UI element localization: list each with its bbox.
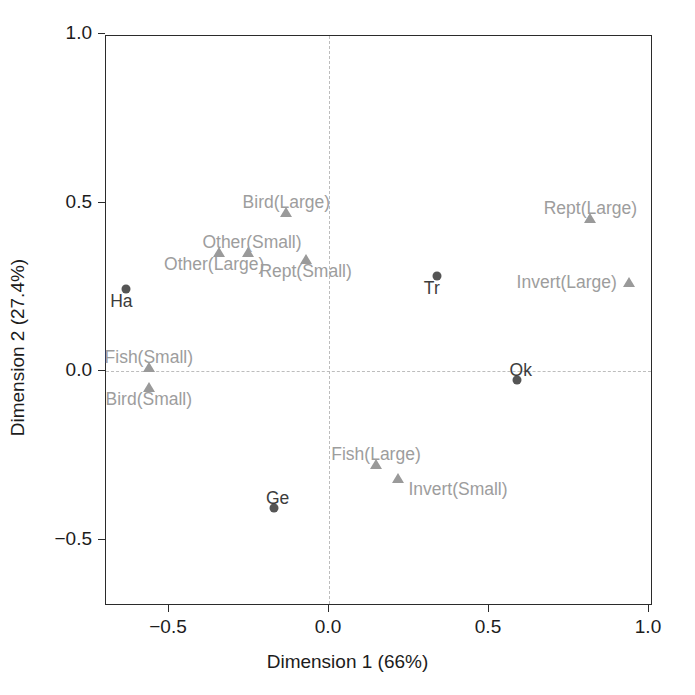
triangle-marker-icon <box>392 473 404 483</box>
x-axis-tick-label: 0.5 <box>475 616 501 638</box>
x-axis-tick-label: 0.0 <box>315 616 341 638</box>
scatter-plot-figure: −0.50.00.51.0−0.50.00.51.0HaTrOkGeBird(L… <box>0 0 695 695</box>
y-axis-tick-label: 0.0 <box>66 359 92 381</box>
data-point-invertlarge <box>623 277 635 287</box>
point-label: Invert(Large) <box>517 272 617 293</box>
point-label: Invert(Small) <box>408 479 507 500</box>
point-label: Bird(Large) <box>243 192 331 213</box>
point-label: Tr <box>424 278 440 299</box>
x-axis-tick-label: 1.0 <box>635 616 661 638</box>
y-axis-tick <box>98 33 105 34</box>
y-axis-tick <box>98 539 105 540</box>
data-point-invertsmall <box>392 473 404 483</box>
triangle-marker-icon <box>623 277 635 287</box>
y-axis-tick-label: 0.5 <box>66 191 92 213</box>
x-axis-tick <box>648 605 649 612</box>
x-axis-tick <box>488 605 489 612</box>
point-label: Rept(Small) <box>259 261 351 282</box>
point-label: Bird(Small) <box>106 389 193 410</box>
point-label: Rept(Large) <box>544 198 637 219</box>
point-label: Ge <box>266 488 289 509</box>
point-label: Ha <box>110 291 132 312</box>
point-label: Other(Large) <box>164 254 264 275</box>
y-axis-title: Dimension 2 (27.4%) <box>0 0 36 695</box>
x-axis-tick <box>168 605 169 612</box>
point-label: Fish(Small) <box>105 347 193 368</box>
x-axis-tick-label: −0.5 <box>149 616 187 638</box>
y-axis-tick-label: 1.0 <box>66 22 92 44</box>
plot-area <box>105 35 652 605</box>
y-axis-tick <box>98 202 105 203</box>
y-axis-tick-label: −0.5 <box>54 528 92 550</box>
point-label: Fish(Large) <box>331 444 420 465</box>
point-label: Ok <box>510 360 532 381</box>
y-axis-tick <box>98 370 105 371</box>
reference-line-horizontal <box>106 371 651 372</box>
x-axis-title: Dimension 1 (66%) <box>0 651 695 673</box>
x-axis-tick <box>328 605 329 612</box>
reference-line-vertical <box>329 36 330 604</box>
